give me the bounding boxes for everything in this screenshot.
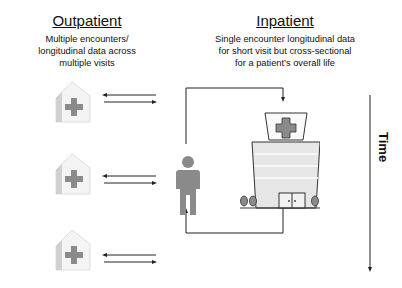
desc-line: longitudinal data across xyxy=(12,45,162,57)
clinic-house-icon xyxy=(52,228,94,274)
outpatient-description: Multiple encounters/ longitudinal data a… xyxy=(12,33,162,69)
desc-line: for a patient’s overall life xyxy=(175,57,395,69)
exchange-arrows xyxy=(102,92,158,106)
outpatient-title: Outpatient xyxy=(22,12,152,29)
time-axis-label: Time xyxy=(376,132,391,162)
desc-line: Single encounter longitudinal data xyxy=(175,33,395,45)
desc-line: for short visit but cross-sectional xyxy=(175,45,395,57)
exchange-arrows xyxy=(102,252,158,266)
clinic-house-icon xyxy=(52,80,94,126)
desc-line: Multiple encounters/ xyxy=(12,33,162,45)
clinic-house-icon xyxy=(52,152,94,198)
time-axis-arrow xyxy=(365,95,375,275)
inpatient-description: Single encounter longitudinal data for s… xyxy=(175,33,395,69)
inpatient-title: Inpatient xyxy=(220,12,350,29)
desc-line: multiple visits xyxy=(12,57,162,69)
person-icon xyxy=(175,155,201,217)
hospital-icon xyxy=(240,110,320,218)
exchange-arrows xyxy=(102,173,158,187)
